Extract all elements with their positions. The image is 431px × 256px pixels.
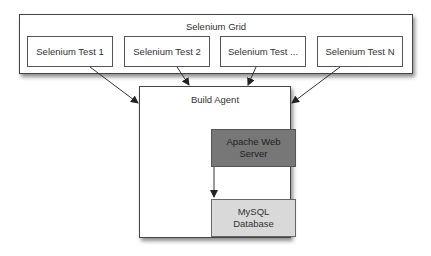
apache-web-server-node: Apache Web Server <box>211 129 296 167</box>
apache-label-line1: Apache Web <box>226 136 280 148</box>
apache-label-line2: Server <box>226 148 280 160</box>
selenium-test-2-node: Selenium Test 2 <box>124 36 210 67</box>
selenium-test-ellipsis-node: Selenium Test ... <box>220 36 306 67</box>
mysql-label-line1: MySQL <box>233 206 274 218</box>
selenium-test-1-label: Selenium Test 1 <box>36 46 103 58</box>
selenium-test-n-node: Selenium Test N <box>317 36 403 67</box>
selenium-test-ellipsis-label: Selenium Test ... <box>228 46 298 58</box>
build-agent-container: Build Agent Apache Web Server MySQL Data… <box>139 86 291 238</box>
mysql-database-node: MySQL Database <box>211 199 296 237</box>
build-agent-title: Build Agent <box>140 94 290 106</box>
selenium-test-2-label: Selenium Test 2 <box>133 46 200 58</box>
selenium-test-1-node: Selenium Test 1 <box>27 36 113 67</box>
mysql-label-line2: Database <box>233 218 274 230</box>
selenium-test-n-label: Selenium Test N <box>326 46 395 58</box>
selenium-grid-title: Selenium Grid <box>20 21 412 33</box>
